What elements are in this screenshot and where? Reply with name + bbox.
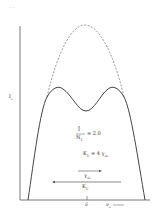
center-tick-label: ν̄ [85, 202, 88, 207]
ratio-value: = 2.0 [87, 131, 101, 136]
gamma-arrow-label: γsb [84, 173, 90, 180]
x-axis-label: νs [106, 202, 111, 209]
dashed-envelope-curve [47, 25, 124, 97]
profile-diagram [0, 0, 159, 218]
y-axis-label: Is [9, 94, 13, 101]
fraction-numerator: Ī [78, 127, 80, 132]
corner-marks: . . [10, 4, 15, 9]
gamma-arrow-head [99, 170, 102, 172]
ku-relation: KU = 4 γsb [83, 151, 108, 158]
ku-arrow-label: KU [82, 184, 88, 191]
ku-arrow-head [52, 181, 55, 183]
fraction-denominator: NT [76, 135, 82, 142]
